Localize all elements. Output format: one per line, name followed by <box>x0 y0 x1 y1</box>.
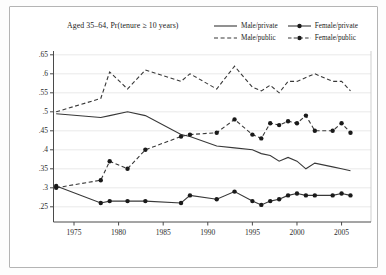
series-marker-female-public <box>259 136 263 140</box>
series-marker-female-private <box>304 193 308 197</box>
series-marker-female-public <box>286 119 290 123</box>
series-marker-female-private <box>250 199 254 203</box>
legend-label: Male/public <box>241 34 276 42</box>
y-tick-label: .6 <box>42 69 48 78</box>
x-tick-label: 1995 <box>245 228 260 237</box>
series-marker-female-public <box>304 113 308 117</box>
series-marker-female-public <box>268 121 272 125</box>
legend: Male/private Female/private Male/public … <box>213 21 358 43</box>
series-marker-female-private <box>339 191 343 195</box>
y-tick-label: .4 <box>42 145 48 154</box>
series-marker-female-private <box>107 199 111 203</box>
series-marker-female-public <box>348 131 352 135</box>
series-marker-female-public <box>250 132 254 136</box>
legend-label: Male/private <box>241 22 278 30</box>
series-marker-female-private <box>232 189 236 193</box>
legend-item-female-private: Female/private <box>287 21 358 31</box>
y-tick-label: .45 <box>39 126 49 135</box>
series-marker-female-public <box>107 159 111 163</box>
x-tick-label: 1990 <box>200 228 215 237</box>
series-marker-female-public <box>330 129 334 133</box>
series-marker-female-public <box>99 178 103 182</box>
x-tick-label: 2000 <box>289 228 304 237</box>
series-marker-female-public <box>339 121 343 125</box>
series-marker-female-private <box>268 199 272 203</box>
series-marker-female-private <box>313 193 317 197</box>
legend-solid-dot-line-sample <box>287 21 312 31</box>
chart-title: Aged 35–64, Pr(tenure ≥ 10 years) <box>67 21 179 30</box>
series-line-female-public <box>56 116 350 188</box>
series-marker-female-private <box>188 193 192 197</box>
legend-label: Female/public <box>315 34 356 42</box>
x-tick-label: 1980 <box>111 228 126 237</box>
y-tick-label: .25 <box>39 202 49 211</box>
series-marker-female-public <box>179 134 183 138</box>
series-marker-female-private <box>125 199 129 203</box>
series-marker-female-private <box>286 193 290 197</box>
series-marker-female-private <box>330 193 334 197</box>
series-marker-female-private <box>277 197 281 201</box>
legend-item-female-public: Female/public <box>287 33 358 43</box>
y-tick-label: .55 <box>39 88 49 97</box>
series-marker-female-private <box>259 203 263 207</box>
legend-dashed-dot-line-sample <box>287 33 312 43</box>
series-marker-female-public <box>215 131 219 135</box>
legend-dashed-line-sample <box>213 33 238 43</box>
series-marker-female-public <box>232 117 236 121</box>
x-tick-label: 2005 <box>334 228 349 237</box>
series-marker-female-private <box>348 193 352 197</box>
series-line-male-private <box>56 112 350 171</box>
series-marker-female-public <box>125 167 129 171</box>
series-marker-female-private <box>99 201 103 205</box>
legend-item-male-private: Male/private <box>213 21 278 31</box>
y-tick-label: .65 <box>39 50 49 59</box>
y-tick-label: .3 <box>42 183 48 192</box>
series-marker-female-public <box>188 132 192 136</box>
figure: .25.3.35.4.45.5.55.6.6519751980198519901… <box>0 0 386 275</box>
x-tick-label: 1985 <box>156 228 171 237</box>
series-marker-female-private <box>179 201 183 205</box>
legend-solid-line-sample <box>213 21 238 31</box>
series-marker-female-private <box>295 191 299 195</box>
legend-item-male-public: Male/public <box>213 33 278 43</box>
legend-label: Female/private <box>315 22 358 30</box>
y-tick-label: .5 <box>42 107 48 116</box>
series-marker-female-private <box>215 197 219 201</box>
series-marker-female-public <box>143 148 147 152</box>
series-marker-female-public <box>54 186 58 190</box>
x-tick-label: 1975 <box>67 228 82 237</box>
series-marker-female-private <box>143 199 147 203</box>
series-marker-female-public <box>277 123 281 127</box>
series-marker-female-public <box>295 121 299 125</box>
y-tick-label: .35 <box>39 164 49 173</box>
series-line-male-public <box>56 66 350 112</box>
series-marker-female-public <box>313 129 317 133</box>
